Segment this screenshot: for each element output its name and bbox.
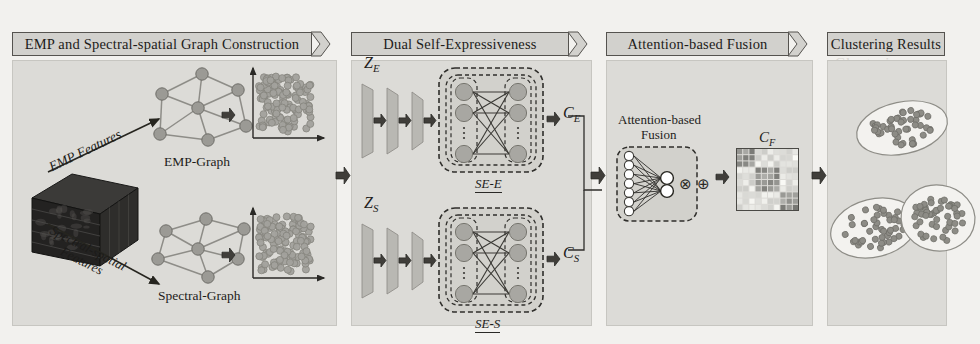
panel-title-label: Dual Self-Expressiveness: [383, 36, 536, 53]
cf-matrix-cell: [749, 180, 754, 185]
cf-matrix-cell: [737, 161, 742, 166]
fusion-input-node: [624, 188, 633, 197]
scatter-point: [290, 115, 297, 122]
graph-node: [202, 271, 214, 283]
panel-title-label: Attention-based Fusion: [627, 36, 767, 53]
cf-matrix-cell: [749, 161, 754, 166]
cf-matrix-cell: [768, 174, 773, 179]
scatter-point: [271, 262, 278, 269]
scatter-point: [286, 259, 293, 266]
cf-matrix-cell: [749, 155, 754, 160]
se-block-branch_top: [437, 66, 545, 174]
cf-matrix-cell: [762, 205, 767, 210]
scatter-point: [284, 82, 291, 89]
se-input-label-branch_bottom-main: Z: [364, 194, 373, 211]
fusion-title-line1: Attention-based: [618, 112, 701, 128]
scatter-point: [283, 89, 290, 96]
scatter-point: [300, 103, 307, 110]
cf-matrix-cell: [762, 149, 767, 154]
cf-matrix-cell: [774, 161, 779, 166]
layer-slab: [412, 232, 423, 290]
cf-matrix-cell: [743, 155, 748, 160]
scatter-point: [260, 111, 267, 118]
layer-arrow-branch_bottom-0-shape: [374, 254, 386, 267]
cf-matrix-cell: [762, 174, 767, 179]
se-vertical-dots: [463, 267, 465, 269]
se-node: [455, 83, 472, 100]
layer-slab: [412, 92, 423, 150]
cf-matrix-cell: [793, 180, 798, 185]
cf-matrix-cell: [756, 180, 761, 185]
se-node: [455, 145, 472, 162]
scatter-point: [296, 89, 303, 96]
cf-matrix-cell: [762, 180, 767, 185]
se-node: [509, 223, 526, 240]
fusion-hub-node: [661, 172, 674, 185]
se-node: [455, 104, 472, 121]
cf-matrix-cell: [787, 155, 792, 160]
se-vertical-dots: [517, 132, 519, 134]
cf-matrix-cell: [749, 199, 754, 204]
to-scatter-arrow-bottom: [222, 248, 235, 262]
cf-matrix-cell: [737, 186, 742, 191]
layer-arrow-branch_top-2: [424, 114, 436, 127]
fusion-input-node: [624, 170, 633, 179]
se-node: [509, 104, 526, 121]
cf-matrix-cell: [793, 149, 798, 154]
cf-matrix-label-main: C: [759, 129, 769, 145]
scatter-point: [264, 103, 271, 110]
cf-matrix-cell: [787, 199, 792, 204]
cf-affinity-matrix: [736, 148, 800, 212]
cf-matrix-cell: [793, 199, 798, 204]
se-vertical-dots: [517, 277, 519, 279]
scatter-point: [307, 223, 314, 230]
cf-matrix-cell: [768, 168, 773, 173]
cf-matrix-cell: [756, 149, 761, 154]
cf-matrix-cell: [749, 174, 754, 179]
scatter-point: [270, 90, 277, 97]
to-scatter-arrow-top-shape: [222, 108, 235, 122]
cf-matrix-cell: [780, 180, 785, 185]
cf-matrix-cell: [793, 168, 798, 173]
se-vertical-dots: [517, 137, 519, 139]
scatter-point: [307, 120, 314, 127]
se-vertical-dots: [463, 277, 465, 279]
se-node: [509, 145, 526, 162]
scatter-point: [256, 253, 263, 260]
fusion-input-node: [624, 151, 633, 160]
cf-matrix-cell: [768, 155, 773, 160]
cf-matrix-cell: [737, 174, 742, 179]
cf-matrix-cell: [743, 168, 748, 173]
cf-matrix-cell: [774, 180, 779, 185]
panel-title-dual-se: Dual Self-Expressiveness: [351, 32, 569, 56]
scatter-point: [270, 245, 277, 252]
cf-matrix-cell: [737, 155, 742, 160]
scatter-point: [279, 126, 286, 133]
layer-slab: [387, 88, 398, 154]
layer-arrow-branch_top-0-shape: [374, 114, 386, 127]
graph-node: [154, 128, 166, 140]
se-input-label-branch_top-main: Z: [364, 54, 373, 71]
cf-matrix-cell: [762, 168, 767, 173]
cf-matrix-cell: [780, 199, 785, 204]
layer-slab: [362, 84, 373, 158]
cf-matrix-cell: [774, 199, 779, 204]
dual-merge-lines: [568, 110, 618, 270]
scatter-point: [260, 92, 267, 99]
panel-title-label: Clustering Results: [831, 36, 941, 53]
se-vertical-dots: [517, 267, 519, 269]
se-vertical-dots: [463, 272, 465, 274]
cf-matrix-cell: [780, 205, 785, 210]
se-outer-dashed-box: [439, 208, 543, 312]
layer-arrow-branch_bottom-2-shape: [424, 254, 436, 267]
cf-matrix-cell: [780, 186, 785, 191]
cf-matrix-cell: [762, 199, 767, 204]
cf-matrix-cell: [756, 199, 761, 204]
scatter-point: [279, 104, 286, 111]
cf-matrix-cell: [737, 168, 742, 173]
cf-matrix-cell: [737, 199, 742, 204]
scatter-point: [276, 256, 283, 263]
to-scatter-arrow-top: [222, 108, 235, 122]
cf-matrix-cell: [756, 205, 761, 210]
se-vertical-dots: [463, 132, 465, 134]
